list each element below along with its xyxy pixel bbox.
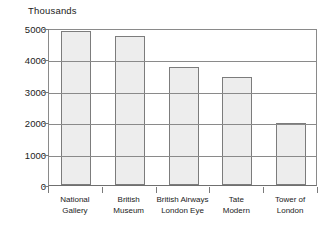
bar — [276, 123, 306, 185]
x-axis-category-label-line: London — [263, 206, 317, 217]
y-axis-tick-label: 4000 — [6, 55, 46, 66]
x-axis-tick-mark — [209, 187, 210, 193]
x-axis-tick-mark — [102, 187, 103, 193]
y-axis-tick-mark — [43, 92, 49, 93]
x-axis-category-label: British AirwaysLondon Eye — [156, 195, 210, 216]
x-axis-category-label-line: Tate — [209, 195, 263, 206]
gridline — [49, 93, 316, 94]
x-axis-tick-mark — [156, 187, 157, 193]
gridline — [49, 156, 316, 157]
x-axis-category-label: NationalGallery — [48, 195, 102, 216]
x-axis-tick-mark — [48, 187, 49, 193]
x-axis-category-label-line: Modern — [209, 206, 263, 217]
x-axis-category-label-line: British — [102, 195, 156, 206]
y-axis-tick-label: 2000 — [6, 118, 46, 129]
bar-series — [49, 30, 316, 185]
y-axis-tick-mark — [43, 60, 49, 61]
y-axis-title: Thousands — [28, 5, 77, 16]
x-axis-category-label-line: Tower of — [263, 195, 317, 206]
y-axis-tick-mark — [43, 29, 49, 30]
x-axis-tick-mark — [263, 187, 264, 193]
x-axis-category-label-line: National — [48, 195, 102, 206]
x-axis-category-label-line: British Airways — [156, 195, 210, 206]
gridline — [49, 61, 316, 62]
x-axis-category-label-line: Gallery — [48, 206, 102, 217]
y-axis-tick-label: 1000 — [6, 149, 46, 160]
x-axis-tick-mark — [317, 187, 318, 193]
x-axis-category-label: BritishMuseum — [102, 195, 156, 216]
y-axis-tick-label: 3000 — [6, 86, 46, 97]
y-axis-tick-mark — [43, 123, 49, 124]
bar — [169, 67, 199, 185]
plot-area — [48, 29, 317, 186]
x-axis-category-label: Tower ofLondon — [263, 195, 317, 216]
y-axis-tick-mark — [43, 155, 49, 156]
bar-chart: Thousands 010002000300040005000 National… — [0, 0, 333, 230]
y-axis-tick-label: 0 — [6, 181, 46, 192]
y-axis-tick-label: 5000 — [6, 24, 46, 35]
gridline — [49, 124, 316, 125]
x-axis-category-label-line: London Eye — [156, 206, 210, 217]
x-axis-category-label: TateModern — [209, 195, 263, 216]
bar — [115, 36, 145, 185]
bar — [61, 31, 91, 185]
x-axis-category-label-line: Museum — [102, 206, 156, 217]
